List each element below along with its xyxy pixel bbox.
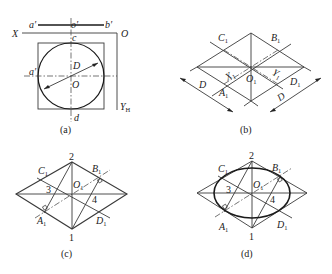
caption-d: (d) (241, 248, 253, 260)
label-D1: D1 (289, 76, 300, 88)
isometric-ellipse-construction-diagram: a′ o′ b′ X O c a′ D O YH d (a) (0, 0, 332, 274)
label-D1: D1 (276, 219, 287, 231)
label-Y1: Y1 (270, 66, 284, 81)
arrow-head-icon (92, 63, 98, 67)
label-3: 3 (226, 184, 231, 195)
label-Y: YH (120, 101, 131, 113)
label-X: X (11, 28, 19, 39)
label-O: O (72, 79, 79, 90)
label-C1: C1 (218, 32, 228, 44)
panel-b: C1 B1 X1 O1 Y1 A1 D1 D D (b) (179, 32, 321, 136)
extension-line (304, 67, 311, 71)
label-D-left: D (198, 79, 207, 90)
panel-d: 2 1 3 4 C1 B1 O1 A1 D1 (d) (197, 150, 307, 260)
label-a-prime-top: a′ (29, 19, 37, 30)
label-O1: O1 (73, 179, 83, 191)
label-1: 1 (69, 232, 74, 243)
caption-a: (a) (60, 124, 71, 136)
label-B1: B1 (271, 32, 280, 44)
label-A1: A1 (36, 215, 46, 227)
label-1: 1 (249, 231, 254, 242)
label-O1: O1 (253, 179, 263, 191)
panel-c: 2 1 3 4 C1 B1 O1 A1 D1 (c) (16, 151, 127, 260)
label-D: D (72, 60, 81, 71)
label-4: 4 (92, 194, 97, 205)
label-B1: B1 (92, 163, 101, 175)
rhombus (16, 162, 127, 229)
label-3: 3 (46, 184, 51, 195)
extension-line (251, 101, 258, 106)
label-c: c (72, 32, 77, 43)
extension-line (190, 67, 197, 71)
label-d: d (74, 112, 80, 123)
label-C1: C1 (38, 165, 48, 177)
arrow-head-icon (44, 85, 50, 89)
label-2: 2 (249, 150, 254, 161)
label-A1: A1 (218, 221, 228, 233)
label-D1: D1 (95, 215, 106, 227)
label-O1: O1 (246, 73, 256, 85)
label-a-prime-left: a′ (29, 66, 37, 77)
label-o-prime: o′ (71, 19, 79, 30)
label-C1: C1 (218, 163, 228, 175)
caption-c: (c) (61, 248, 72, 260)
label-A1: A1 (218, 87, 228, 99)
label-X1: X1 (222, 68, 237, 84)
caption-b: (b) (240, 124, 252, 136)
label-B1: B1 (272, 162, 281, 174)
label-4: 4 (270, 194, 275, 205)
label-b-prime: b′ (105, 19, 113, 30)
panel-a: a′ o′ b′ X O c a′ D O YH d (a) (11, 18, 131, 136)
label-O-axis: O (121, 28, 128, 39)
label-2: 2 (69, 151, 74, 162)
extension-line (244, 101, 251, 106)
